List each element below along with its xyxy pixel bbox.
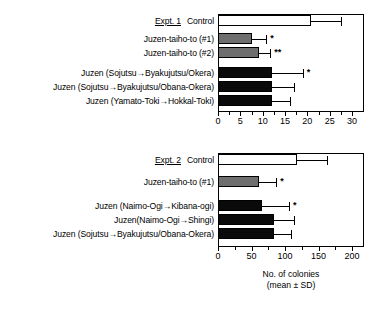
error-bar-cap — [270, 49, 271, 58]
bar-row: Juzen (Sojutsu→Byakujutsu/Obana-Okera) — [0, 227, 382, 241]
error-bar-cap — [341, 17, 342, 26]
error-bar-cap — [289, 202, 290, 211]
bar-row-label: Juzen(Naimo-Ogi→Shingi) — [0, 216, 218, 225]
error-bar — [259, 53, 271, 54]
bar-track — [218, 80, 378, 94]
x-axis-title: No. of colonies (mean ± SD) — [224, 269, 358, 291]
bar-row-label: Juzen (Naimo-Ogi→Kibana-ogi) — [0, 202, 218, 211]
axis-tick-label: 20 — [302, 116, 312, 127]
error-bar — [272, 73, 303, 74]
category-label: Juzen (Sojutsu→Byakujutsu/Obana-Okera) — [53, 229, 214, 239]
error-bar-cap — [294, 216, 295, 225]
axis-tick-label: 0 — [215, 116, 220, 127]
bar-row-label: Juzen (Yamato-Toki→Hokkal-Toki) — [0, 97, 218, 106]
error-bar-cap — [290, 97, 291, 106]
bar-row-label: Juzen (Sojutsu→Byakujutsu/Obana-Okera) — [0, 230, 218, 239]
axis-minor-tick — [252, 112, 253, 115]
bar-row-label: Juzen-taiho-to (#1) — [0, 178, 218, 187]
axis-minor-tick — [274, 112, 275, 115]
bar-rows-expt2: Expt. 2ControlJuzen-taiho-to (#1)*Juzen … — [0, 153, 382, 241]
error-bar-cap — [303, 69, 304, 78]
axis-minor-tick — [235, 247, 236, 250]
category-label: Juzen-taiho-to (#1) — [144, 177, 214, 187]
axis-tick-label: 150 — [311, 251, 326, 262]
bar-row-label: Expt. 1Control — [0, 17, 218, 26]
error-bar-cap — [291, 230, 292, 239]
bar-track: * — [218, 66, 378, 80]
error-bar-cap — [266, 35, 267, 44]
category-label: Juzen (Sojutsu→Byakujutsu/Obana-Okera) — [53, 82, 214, 92]
x-axis-expt2: 050100150200 — [218, 247, 364, 263]
bar-row-label: Juzen-taiho-to (#1) — [0, 35, 218, 44]
bar-row: Juzen-taiho-to (#1)* — [0, 175, 382, 189]
error-bar — [311, 21, 341, 22]
bar-track — [218, 227, 378, 241]
axis-tick-label: 5 — [238, 116, 243, 127]
category-label: Control — [187, 155, 214, 165]
bar-track — [218, 14, 378, 28]
bar — [218, 228, 274, 239]
axis-tick-label: 10 — [258, 116, 268, 127]
category-label: Juzen (Naimo-Ogi→Kibana-ogi) — [95, 201, 214, 211]
significance-marker: * — [270, 32, 274, 44]
axis-minor-tick — [268, 247, 269, 250]
error-bar — [274, 220, 293, 221]
bar — [218, 154, 297, 165]
bar — [218, 214, 274, 225]
axis-tick-label: 50 — [246, 251, 256, 262]
significance-marker: * — [293, 199, 297, 211]
axis-minor-tick — [341, 112, 342, 115]
bar-track — [218, 94, 378, 108]
axis-tick-label: 0 — [215, 251, 220, 262]
bar — [218, 200, 262, 211]
bar-track: * — [218, 175, 378, 189]
panel-expt-label: Expt. 2 — [155, 155, 181, 165]
bar-row: Expt. 2Control — [0, 153, 382, 167]
category-label: Juzen (Sojutsu→Byakujutsu/Okera) — [81, 68, 214, 78]
error-bar — [274, 234, 291, 235]
error-bar-cap — [294, 83, 295, 92]
bar — [218, 81, 272, 92]
bar-track: * — [218, 199, 378, 213]
bar-row: Juzen-taiho-to (#1)* — [0, 32, 382, 46]
axis-minor-tick — [302, 247, 303, 250]
error-bar-cap — [276, 178, 277, 187]
error-bar — [252, 39, 266, 40]
axis-minor-tick — [296, 112, 297, 115]
bar-row: Juzen(Naimo-Ogi→Shingi) — [0, 213, 382, 227]
category-label: Control — [187, 16, 214, 26]
bar-track — [218, 153, 378, 167]
x-axis-expt1: 051015202530 — [218, 112, 364, 128]
bar — [218, 95, 272, 106]
bar — [218, 176, 259, 187]
bar-track — [218, 213, 378, 227]
category-label: Juzen-taiho-to (#1) — [144, 34, 214, 44]
significance-marker: * — [307, 66, 311, 78]
significance-marker: ** — [274, 46, 281, 58]
bar — [218, 47, 259, 58]
axis-minor-tick — [319, 112, 320, 115]
bar-track: ** — [218, 46, 378, 60]
category-label: Juzen-taiho-to (#2) — [144, 48, 214, 58]
bar-row: Juzen (Sojutsu→Byakujutsu/Obana-Okera) — [0, 80, 382, 94]
bar-row: Juzen-taiho-to (#2)** — [0, 46, 382, 60]
category-label: Juzen(Naimo-Ogi→Shingi) — [114, 215, 214, 225]
error-bar — [262, 206, 289, 207]
bar-row-label: Expt. 2Control — [0, 156, 218, 165]
x-axis-title-line1: No. of colonies — [224, 269, 358, 280]
axis-tick-label: 100 — [277, 251, 292, 262]
error-bar — [297, 160, 326, 161]
chart-panel-expt2: Expt. 2ControlJuzen-taiho-to (#1)*Juzen … — [0, 150, 382, 315]
chart-panel-expt1: Expt. 1ControlJuzen-taiho-to (#1)*Juzen-… — [0, 0, 382, 150]
bar — [218, 67, 272, 78]
bar-track: * — [218, 32, 378, 46]
bar-row: Juzen (Sojutsu→Byakujutsu/Okera)* — [0, 66, 382, 80]
axis-tick-label: 15 — [280, 116, 290, 127]
error-bar-cap — [327, 156, 328, 165]
panel-expt-label: Expt. 1 — [155, 16, 181, 26]
bar-row-label: Juzen (Sojutsu→Byakujutsu/Okera) — [0, 69, 218, 78]
axis-minor-tick — [229, 112, 230, 115]
axis-minor-tick — [335, 247, 336, 250]
bar-row-label: Juzen-taiho-to (#2) — [0, 49, 218, 58]
figure-root: Expt. 1ControlJuzen-taiho-to (#1)*Juzen-… — [0, 0, 382, 315]
